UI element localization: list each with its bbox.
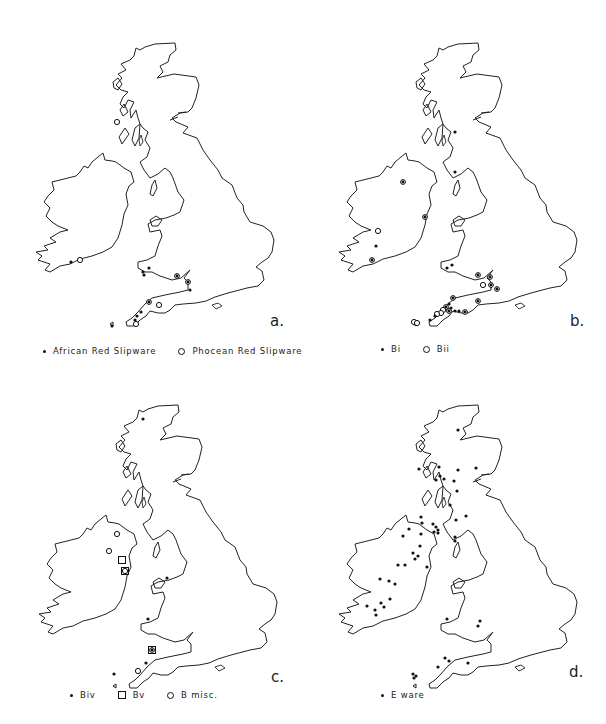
find-spot-dot	[393, 582, 396, 585]
legend-label: Phocean Red Slipware	[192, 346, 302, 356]
find-spot-dot	[382, 605, 385, 608]
find-spot-dot	[476, 624, 479, 627]
find-spot-dot	[453, 539, 456, 542]
map-outline	[339, 405, 577, 688]
find-spot-circle	[122, 568, 127, 573]
panel-label-a: a.	[270, 312, 284, 330]
find-spot-dot	[412, 676, 415, 679]
find-spot-dot	[407, 527, 410, 530]
find-spot-dot	[448, 503, 451, 506]
find-spot-dot	[373, 608, 376, 611]
legend-item: African Red Slipware	[43, 346, 156, 356]
find-spot-dot	[411, 672, 414, 675]
find-spot-dot	[365, 604, 368, 607]
find-spot-dot	[396, 563, 399, 566]
open-circle-icon	[423, 346, 430, 353]
find-spot-dot	[112, 672, 115, 675]
legend-item: B misc.	[167, 690, 218, 700]
find-spot-dot	[445, 266, 448, 269]
panel-d	[339, 405, 577, 688]
find-spot-dot	[456, 468, 459, 471]
find-spot-dot	[425, 565, 428, 568]
find-spot-circle	[135, 668, 140, 673]
find-spot-circle	[106, 548, 111, 553]
find-spot-circle	[480, 282, 485, 287]
find-spot-dot	[453, 535, 456, 538]
markers-a	[69, 119, 191, 327]
find-spot-dot	[135, 314, 138, 317]
open-square-icon	[118, 691, 126, 699]
legend-label: B misc.	[181, 690, 218, 700]
map-outline	[339, 43, 577, 326]
panel-c	[39, 405, 277, 688]
find-spot-dot	[379, 601, 382, 604]
filled-dot-icon	[43, 350, 46, 353]
open-circle-icon	[178, 348, 185, 355]
find-spot-dot	[432, 530, 435, 533]
find-spot-dot	[438, 474, 441, 477]
find-spot-dot	[146, 617, 149, 620]
find-spot-dot	[474, 466, 477, 469]
find-spot-dot	[453, 170, 456, 173]
find-spot-dot	[447, 659, 450, 662]
legend-item: E ware	[381, 690, 425, 700]
british-isles-distribution-maps	[0, 0, 606, 724]
find-spot-dot	[466, 661, 469, 664]
find-spot-dot	[403, 563, 406, 566]
find-spot-dot	[188, 288, 191, 291]
find-spot-dot	[374, 244, 377, 247]
legend-item: Bii	[423, 344, 450, 354]
find-spot-dot	[457, 309, 460, 312]
find-spot-dot	[417, 467, 420, 470]
find-spot-dot	[378, 577, 381, 580]
legend-item: Biv	[70, 690, 96, 700]
find-spot-dot	[411, 551, 414, 554]
legend-item: Phocean Red Slipware	[178, 346, 302, 356]
find-spot-circle	[77, 257, 82, 262]
panel-a	[36, 43, 274, 328]
find-spot-dot	[478, 619, 481, 622]
find-spot-dot	[165, 576, 168, 579]
find-spot-dot	[436, 528, 439, 531]
panel-label-c: c.	[271, 668, 284, 686]
find-spot-circle	[414, 320, 419, 325]
find-spot-dot	[464, 514, 467, 517]
find-spot-dot	[434, 478, 437, 481]
find-spot-circle	[133, 321, 138, 326]
find-spot-dot	[443, 656, 446, 659]
markers-b	[370, 130, 500, 325]
find-spot-dot	[141, 417, 144, 420]
find-spot-dot	[456, 428, 459, 431]
legend-label: Bii	[437, 344, 450, 354]
find-spot-dot	[374, 613, 377, 616]
legend-label: E ware	[391, 690, 425, 700]
find-spot-dot	[433, 314, 436, 317]
find-spot-dot	[139, 310, 142, 313]
find-spot-dot	[452, 479, 455, 482]
find-spot-circle	[156, 302, 161, 307]
panel-label-d: d.	[569, 663, 583, 681]
find-spot-dot	[418, 544, 421, 547]
filled-dot-icon	[381, 348, 384, 351]
find-spot-dot	[387, 579, 390, 582]
find-spot-dot	[454, 518, 457, 521]
find-spot-dot	[388, 597, 391, 600]
filled-dot-icon	[70, 694, 73, 697]
find-spot-dot	[431, 522, 434, 525]
legend-d: E ware	[381, 690, 447, 700]
find-spot-dot	[419, 515, 422, 518]
map-outline	[36, 43, 274, 326]
find-spot-dot	[428, 318, 431, 321]
map-outline	[39, 405, 277, 688]
find-spot-dot	[434, 525, 437, 528]
find-spot-dot	[450, 263, 453, 266]
filled-dot-icon	[381, 694, 384, 697]
find-spot-dot	[142, 273, 145, 276]
panel-label-b: b.	[570, 312, 584, 330]
find-spot-dot	[437, 465, 440, 468]
open-circle-icon	[167, 692, 174, 699]
find-spot-square	[119, 557, 126, 564]
find-spot-dot	[419, 532, 422, 535]
find-spot-dot	[144, 661, 147, 664]
find-spot-dot	[453, 309, 456, 312]
